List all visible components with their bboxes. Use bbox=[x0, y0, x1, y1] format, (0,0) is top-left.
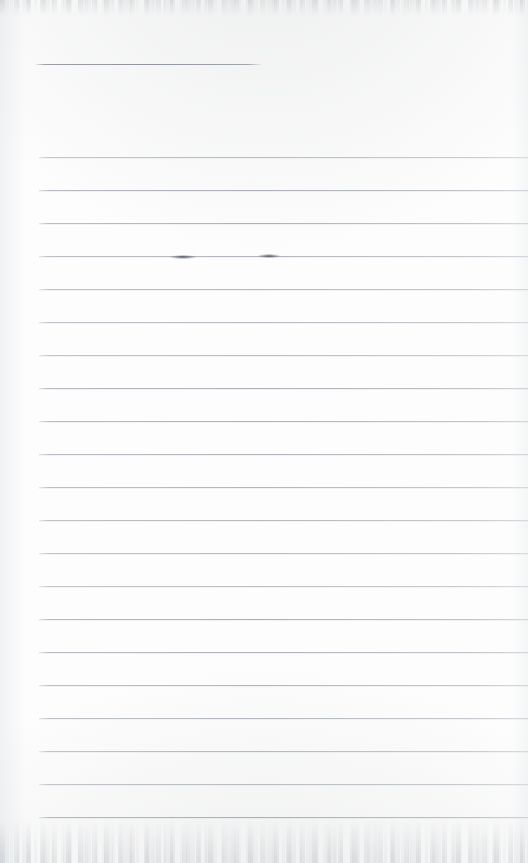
ruled-line bbox=[39, 190, 528, 191]
ruled-line bbox=[39, 619, 528, 620]
ruled-line bbox=[39, 520, 528, 521]
ruled-line bbox=[39, 355, 528, 356]
ruled-line bbox=[39, 487, 528, 488]
ruled-line bbox=[39, 784, 528, 785]
ruled-line bbox=[39, 388, 528, 389]
ruled-line bbox=[39, 454, 528, 455]
ruled-line bbox=[39, 685, 528, 686]
ruled-line bbox=[39, 289, 528, 290]
ruled-line bbox=[39, 256, 528, 257]
ruled-line bbox=[39, 223, 528, 224]
ruled-line bbox=[39, 421, 528, 422]
ink-smudge-left bbox=[170, 255, 196, 259]
ruled-line bbox=[39, 652, 528, 653]
ink-smudge-right bbox=[258, 254, 280, 258]
ruled-line bbox=[39, 322, 528, 323]
ruled-line bbox=[39, 586, 528, 587]
ruled-line bbox=[39, 817, 528, 818]
header-rule bbox=[36, 64, 261, 65]
ruled-line bbox=[39, 553, 528, 554]
scanned-page bbox=[0, 0, 528, 863]
paper-background bbox=[0, 0, 528, 863]
ruled-line bbox=[39, 718, 528, 719]
ruled-line bbox=[39, 751, 528, 752]
ruled-line bbox=[39, 157, 528, 158]
